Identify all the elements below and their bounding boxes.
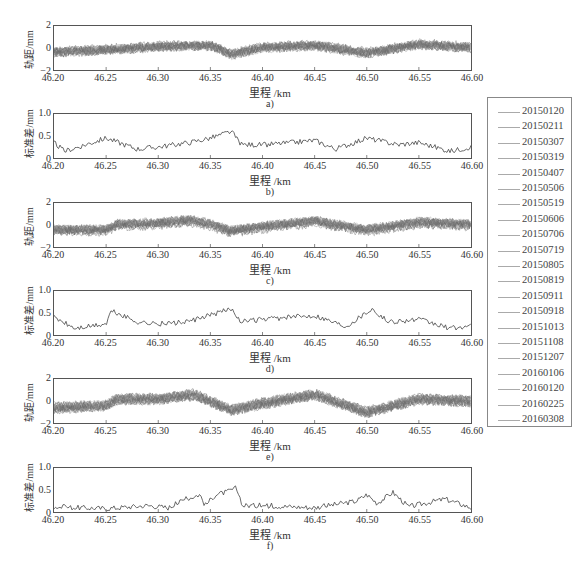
legend-label: 20150719 — [522, 244, 564, 255]
legend-item: 20151108 — [488, 335, 573, 351]
x-tick: 46.40 — [243, 514, 283, 525]
x-tick: 46.60 — [452, 425, 492, 436]
x-tick: 46.55 — [400, 160, 440, 171]
legend-item: 20150805 — [488, 258, 573, 274]
panel-d: 标准差/mm1.00.5046.2046.2546.3046.3546.4046… — [0, 280, 480, 370]
y-tick: 2 — [37, 196, 51, 207]
legend-line-icon — [498, 174, 520, 175]
x-tick: 46.35 — [190, 337, 230, 348]
legend-item: 20160106 — [488, 366, 573, 382]
panel-f: 标准差/mm1.00.5046.2046.2546.3046.3546.4046… — [0, 457, 480, 547]
x-tick: 46.50 — [347, 72, 387, 83]
plot-area — [53, 25, 472, 71]
series-trace — [54, 203, 471, 247]
legend-label: 20160106 — [522, 367, 564, 378]
y-tick: 0 — [37, 395, 51, 406]
legend-item: 20150519 — [488, 196, 573, 212]
x-tick: 46.55 — [400, 337, 440, 348]
x-tick: 46.25 — [85, 337, 125, 348]
legend-line-icon — [498, 343, 520, 344]
x-tick: 46.45 — [295, 72, 335, 83]
legend-label: 20150805 — [522, 259, 564, 270]
y-tick: 0 — [37, 42, 51, 53]
legend-label: 20150706 — [522, 228, 564, 239]
panel-e: 轨距/mm20−246.2046.2546.3046.3546.4046.454… — [0, 368, 480, 458]
legend: 2015012020150211201503072015031920150407… — [487, 97, 572, 427]
y-tick: 0 — [37, 219, 51, 230]
legend-label: 20150120 — [522, 105, 564, 116]
x-tick: 46.60 — [452, 514, 492, 525]
legend-line-icon — [498, 358, 520, 359]
legend-label: 20150319 — [522, 151, 564, 162]
x-tick: 46.55 — [400, 425, 440, 436]
legend-item: 20150407 — [488, 166, 573, 182]
y-tick: 2 — [37, 19, 51, 30]
x-tick: 46.40 — [243, 72, 283, 83]
y-axis-label: 标准差/mm — [21, 472, 36, 512]
legend-label: 20150407 — [522, 167, 564, 178]
x-tick: 46.35 — [190, 425, 230, 436]
legend-label: 20150519 — [522, 197, 564, 208]
legend-item: 20150911 — [488, 289, 573, 305]
x-tick: 46.25 — [85, 514, 125, 525]
x-tick: 46.30 — [138, 160, 178, 171]
legend-item: 20150120 — [488, 104, 573, 120]
y-tick: 2 — [37, 372, 51, 383]
y-axis-label: 标准差/mm — [21, 118, 36, 158]
x-tick: 46.50 — [347, 514, 387, 525]
x-tick: 46.45 — [295, 160, 335, 171]
x-tick: 46.50 — [347, 249, 387, 260]
legend-line-icon — [498, 204, 520, 205]
legend-item: 20150719 — [488, 243, 573, 259]
legend-line-icon — [498, 374, 520, 375]
x-tick: 46.35 — [190, 249, 230, 260]
legend-item: 20150506 — [488, 181, 573, 197]
x-tick: 46.20 — [33, 337, 73, 348]
legend-item: 20151207 — [488, 350, 573, 366]
x-tick: 46.40 — [243, 337, 283, 348]
legend-item: 20150307 — [488, 135, 573, 151]
y-tick: 0.5 — [37, 307, 51, 318]
x-tick: 46.40 — [243, 249, 283, 260]
legend-label: 20150819 — [522, 274, 564, 285]
x-tick: 46.60 — [452, 249, 492, 260]
x-tick: 46.60 — [452, 72, 492, 83]
series-trace — [54, 291, 471, 335]
legend-line-icon — [498, 158, 520, 159]
x-tick: 46.45 — [295, 514, 335, 525]
legend-item: 20150918 — [488, 304, 573, 320]
x-tick: 46.20 — [33, 160, 73, 171]
x-tick: 46.55 — [400, 514, 440, 525]
x-tick: 46.55 — [400, 72, 440, 83]
series-trace — [54, 114, 471, 158]
legend-line-icon — [498, 312, 520, 313]
x-tick: 46.35 — [190, 72, 230, 83]
y-tick: 0.5 — [37, 130, 51, 141]
x-tick: 46.30 — [138, 337, 178, 348]
legend-item: 20150819 — [488, 273, 573, 289]
y-axis-label: 轨距/mm — [21, 383, 36, 423]
legend-label: 20150911 — [522, 290, 564, 301]
legend-item: 20151013 — [488, 320, 573, 336]
legend-line-icon — [498, 112, 520, 113]
legend-line-icon — [498, 328, 520, 329]
plot-area — [53, 202, 472, 248]
x-tick: 46.35 — [190, 514, 230, 525]
legend-item: 20150606 — [488, 212, 573, 228]
legend-item: 20160225 — [488, 397, 573, 413]
legend-item: 20160308 — [488, 412, 573, 428]
x-tick: 46.45 — [295, 249, 335, 260]
legend-item: 20160120 — [488, 381, 573, 397]
legend-line-icon — [498, 420, 520, 421]
series-trace — [54, 26, 471, 70]
legend-label: 20151108 — [522, 336, 564, 347]
plot-area — [53, 113, 472, 159]
plot-area — [53, 378, 472, 424]
panel-caption: f) — [255, 540, 285, 551]
legend-label: 20160308 — [522, 413, 564, 424]
x-tick: 46.25 — [85, 160, 125, 171]
panel-b: 标准差/mm1.00.5046.2046.2546.3046.3546.4046… — [0, 103, 480, 193]
x-tick: 46.20 — [33, 514, 73, 525]
legend-line-icon — [498, 266, 520, 267]
legend-label: 20160120 — [522, 382, 564, 393]
